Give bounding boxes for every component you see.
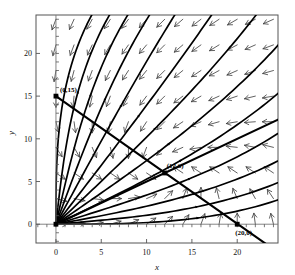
equilibrium-marker-pt-0-0: [54, 222, 59, 227]
x-tick-labels: 05101520: [54, 248, 241, 257]
equilibrium-label-pt-20-0: (20,0): [235, 229, 253, 237]
x-tick-label: 0: [54, 248, 58, 257]
equilibrium-label-pt-12-6: (12,6): [167, 162, 185, 170]
equilibrium-marker-pt-0-15: [54, 94, 59, 99]
y-tick-label: 5: [28, 178, 32, 187]
y-tick-label: 20: [24, 49, 32, 58]
plot-canvas: 05101520 05101520 x y (0,15)(12,6)(20,0): [0, 0, 295, 275]
y-tick-labels: 05101520: [24, 49, 32, 229]
y-tick-label: 0: [28, 220, 32, 229]
x-axis-label: x: [154, 262, 159, 272]
x-tick-label: 10: [143, 248, 151, 257]
equilibrium-label-pt-0-15: (0,15): [60, 86, 78, 94]
y-axis-label: y: [6, 131, 16, 136]
equilibrium-marker-pt-20-0: [235, 222, 240, 227]
equilibrium-marker-pt-12-6: [162, 171, 167, 176]
x-tick-label: 15: [188, 248, 196, 257]
y-tick-label: 15: [24, 92, 32, 101]
x-tick-label: 5: [99, 248, 103, 257]
phase-portrait-figure: 05101520 05101520 x y (0,15)(12,6)(20,0): [0, 0, 295, 275]
x-tick-label: 20: [233, 248, 241, 257]
y-tick-label: 10: [24, 135, 32, 144]
